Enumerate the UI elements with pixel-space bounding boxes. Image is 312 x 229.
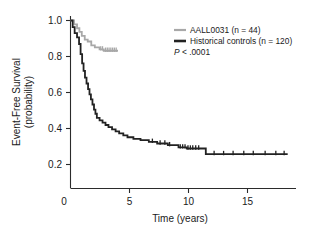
x-tick-label-10: 10	[183, 196, 195, 207]
censor-marks-layer	[101, 46, 284, 155]
x-tick-label-0: 0	[61, 196, 67, 207]
legend-pvalue-rest: < .0001	[180, 47, 211, 57]
y-tick-label-0.8: 0.8	[48, 51, 62, 62]
legend: AALL0031 (n = 44) Historical controls (n…	[174, 25, 292, 57]
legend-label-historical-controls: Historical controls (n = 120)	[190, 36, 292, 46]
y-tick-label-0.2: 0.2	[48, 159, 62, 170]
y-tick-label-0.6: 0.6	[48, 87, 62, 98]
x-tick-label-5: 5	[127, 196, 133, 207]
y-tick-label-1.0: 1.0	[48, 15, 62, 26]
y-axis-title-line2: (probability)	[23, 76, 34, 128]
y-axis-title-line1: Event-Free Survival	[11, 58, 22, 146]
legend-pvalue: P < .0001	[174, 47, 210, 57]
y-tick-label-0.4: 0.4	[48, 123, 62, 134]
y-axis-ticks	[66, 21, 71, 165]
x-axis-ticks	[130, 189, 248, 194]
survival-plot: 1.0 0.8 0.6 0.4 0.2 0 5 10 15 Time (year…	[0, 0, 312, 229]
legend-label-aall0031: AALL0031 (n = 44)	[190, 25, 261, 35]
x-tick-label-15: 15	[242, 196, 254, 207]
kaplan-meier-figure: 1.0 0.8 0.6 0.4 0.2 0 5 10 15 Time (year…	[0, 0, 312, 229]
x-axis-title: Time (years)	[152, 213, 208, 224]
